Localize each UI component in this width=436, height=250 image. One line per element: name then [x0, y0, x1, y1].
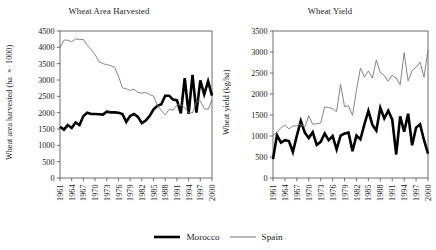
y-tick-label: 2500 — [251, 69, 267, 78]
x-tick-label: 1964 — [68, 185, 77, 201]
legend-label-spain: Spain — [262, 232, 283, 242]
figure-wheat-morocco-spain: Wheat Area Harvested Wheat area harveste… — [0, 0, 436, 250]
x-tick-label: 2000 — [424, 185, 433, 201]
x-tick-label: 1967 — [293, 185, 302, 201]
chart-panel-wheat-area-harvested: Wheat Area Harvested Wheat area harveste… — [0, 0, 218, 222]
y-tick-label: 3000 — [251, 48, 267, 57]
x-tick-label: 1988 — [376, 185, 385, 201]
plot-area-area-harvested: 0500100015002000250030003500400045001961… — [0, 0, 218, 222]
x-tick-label: 1976 — [115, 185, 124, 201]
y-tick-label: 0 — [263, 174, 267, 183]
x-tick-label: 1997 — [412, 185, 421, 201]
y-tick-label: 3500 — [38, 60, 54, 69]
legend-entry-morocco: Morocco — [153, 232, 219, 242]
x-tick-label: 1964 — [281, 185, 290, 201]
x-tick-label: 2000 — [208, 185, 217, 201]
y-tick-label: 4000 — [38, 43, 54, 52]
x-tick-label: 1967 — [79, 185, 88, 201]
x-tick-label: 1982 — [353, 185, 362, 201]
x-tick-label: 1970 — [91, 185, 100, 201]
legend-swatch-morocco — [153, 233, 181, 241]
x-tick-label: 1994 — [185, 185, 194, 201]
x-tick-label: 1973 — [103, 185, 112, 201]
x-tick-label: 1961 — [269, 185, 278, 201]
y-tick-label: 1500 — [38, 125, 54, 134]
x-tick-label: 1985 — [364, 185, 373, 201]
data-line-morocco — [273, 108, 428, 159]
legend-label-morocco: Morocco — [186, 232, 219, 242]
y-tick-label: 2500 — [38, 92, 54, 101]
y-tick-label: 500 — [42, 158, 54, 167]
y-axis-label-wheat-yield: Wheat yield (kg/ha) — [222, 26, 232, 178]
chart-panel-wheat-yield: Wheat Yield 0500100015002000250030003500… — [218, 0, 436, 222]
y-tick-label: 500 — [255, 153, 267, 162]
y-tick-label: 3000 — [38, 76, 54, 85]
x-tick-label: 1997 — [196, 185, 205, 201]
data-line-morocco — [60, 75, 212, 130]
legend-entry-spain: Spain — [229, 232, 283, 242]
x-tick-label: 1970 — [305, 185, 314, 201]
x-tick-label: 1973 — [317, 185, 326, 201]
x-tick-label: 1985 — [150, 185, 159, 201]
x-tick-label: 1979 — [126, 185, 135, 201]
y-tick-label: 2000 — [251, 90, 267, 99]
plot-area-wheat-yield: 0500100015002000250030003500196119641967… — [218, 0, 436, 222]
y-tick-label: 0 — [50, 174, 54, 183]
y-tick-label: 2000 — [38, 109, 54, 118]
y-tick-label: 4500 — [38, 27, 54, 36]
y-tick-label: 1500 — [251, 111, 267, 120]
x-tick-label: 1991 — [388, 185, 397, 201]
data-line-spain — [273, 50, 428, 135]
x-tick-label: 1976 — [329, 185, 338, 201]
y-tick-label: 1000 — [38, 141, 54, 150]
x-tick-label: 1988 — [161, 185, 170, 201]
legend-swatch-spain — [229, 233, 257, 241]
x-tick-label: 1982 — [138, 185, 147, 201]
x-tick-label: 1994 — [400, 185, 409, 201]
plot-frame — [273, 31, 428, 178]
y-tick-label: 1000 — [251, 132, 267, 141]
chart-legend: Morocco Spain — [0, 224, 436, 250]
y-tick-label: 3500 — [251, 27, 267, 36]
x-tick-label: 1979 — [341, 185, 350, 201]
x-tick-label: 1991 — [173, 185, 182, 201]
x-tick-label: 1961 — [56, 185, 65, 201]
